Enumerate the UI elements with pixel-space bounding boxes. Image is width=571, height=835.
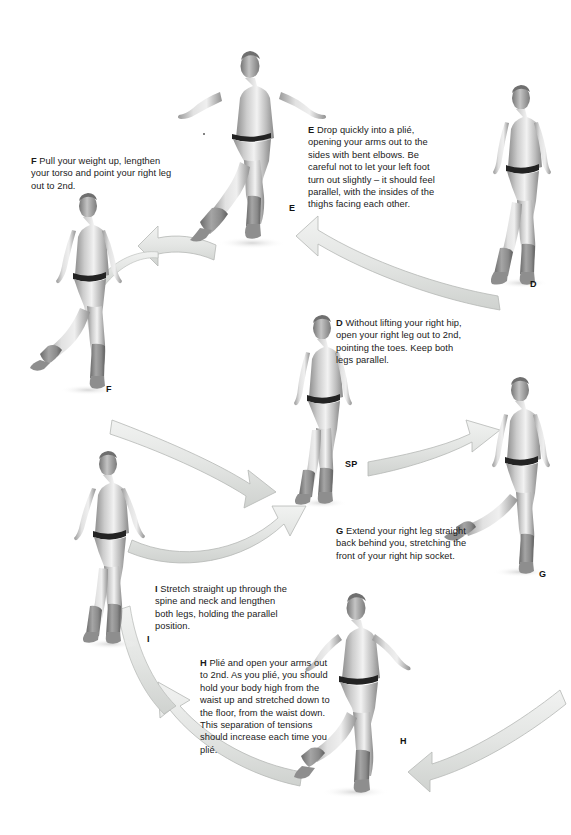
arrow-e-to-f — [104, 226, 216, 286]
caption-g-text: Extend your right leg straight back behi… — [336, 526, 466, 561]
figure-label-g: G — [539, 569, 546, 579]
figure-f-art — [30, 193, 122, 395]
arrow-d-to-e — [296, 216, 500, 310]
caption-d: D Without lifting your right hip, open y… — [336, 317, 469, 367]
figure-label-sp: SP — [345, 459, 358, 469]
figure-e-art — [178, 51, 326, 249]
caption-e: E Drop quickly into a plié, opening your… — [308, 124, 436, 211]
caption-i: I Stretch straight up through the spine … — [155, 583, 295, 633]
caption-d-lead: D — [336, 318, 343, 328]
caption-i-text: Stretch straight up through the spine an… — [155, 584, 287, 631]
arrow-sp-to-g — [368, 420, 500, 476]
figure-label-i: I — [147, 634, 150, 644]
figure-label-e: E — [289, 203, 295, 213]
arrow-f-to-sp — [110, 420, 276, 508]
caption-e-text: Drop quickly into a plié, opening your a… — [308, 125, 435, 209]
caption-f: F Pull your weight up, lengthen your tor… — [31, 155, 181, 192]
arrow-g-to-h — [408, 690, 566, 792]
caption-d-text: Without lifting your right hip, open you… — [336, 318, 462, 365]
caption-g: G Extend your right leg straight back be… — [336, 525, 468, 562]
diagram-page: E Drop quickly into a plié, opening your… — [0, 0, 571, 835]
caption-h-lead: H — [200, 658, 207, 668]
figure-label-d: D — [530, 279, 537, 289]
arrow-i-to-sp — [128, 506, 306, 563]
caption-h: H Plié and open your arms out to 2nd. As… — [200, 657, 330, 756]
caption-h-text: Plié and open your arms out to 2nd. As y… — [200, 658, 330, 755]
figure-i-art — [74, 451, 145, 649]
stray-mark — [203, 133, 205, 135]
figure-label-f: F — [106, 384, 112, 394]
figure-d-art — [491, 85, 551, 288]
caption-f-text: Pull your weight up, lengthen your torso… — [31, 156, 171, 191]
figure-label-h: H — [400, 736, 407, 746]
